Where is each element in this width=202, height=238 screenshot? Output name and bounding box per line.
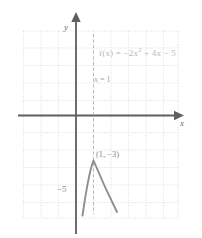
coordinate-plane — [0, 0, 202, 238]
y-axis — [71, 12, 80, 234]
x-axis — [18, 111, 184, 120]
grid-horizontal-lines — [24, 31, 179, 218]
grid-vertical-lines — [24, 31, 179, 218]
graph-figure: y x f(x) = −2x2 + 4x − 5 x = 1 (1, −3) −… — [0, 0, 202, 238]
parabola-curve — [83, 161, 118, 216]
